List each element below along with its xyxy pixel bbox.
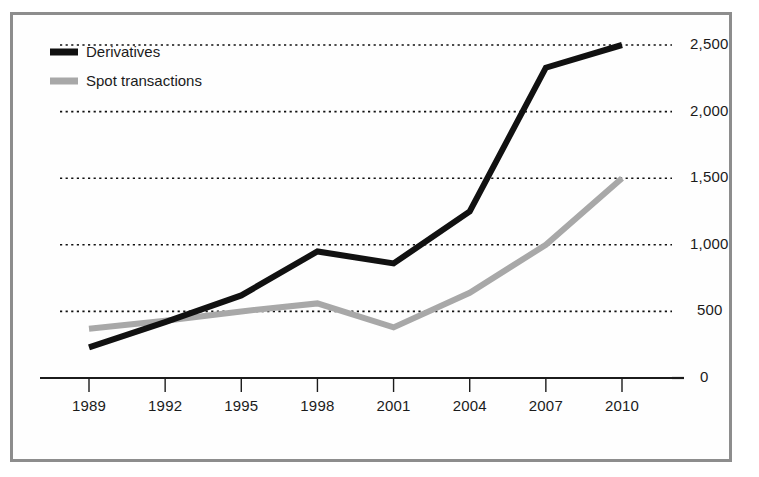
- legend-label-spot-transactions: Spot transactions: [86, 72, 202, 89]
- legend-label-derivatives: Derivatives: [86, 43, 160, 60]
- y-axis-label-500: 500: [697, 301, 723, 318]
- x-axis-label-2007: 2007: [529, 397, 563, 414]
- x-axis-label-2004: 2004: [453, 397, 487, 414]
- x-axis-label-1995: 1995: [224, 397, 258, 414]
- x-axis-label-1998: 1998: [300, 397, 334, 414]
- x-tick-marks-group: [89, 378, 622, 392]
- chart-legend: DerivativesSpot transactions: [50, 43, 202, 89]
- x-axis-labels-group: 19891992199519982001200420072010: [72, 397, 639, 414]
- y-axis-label-1500: 1,500: [690, 168, 729, 185]
- line-chart: 05001,0001,5002,0002,500 198919921995199…: [0, 0, 759, 477]
- series-group: [89, 45, 622, 347]
- chart-plot-area: 05001,0001,5002,0002,500 198919921995199…: [0, 0, 759, 477]
- series-line-spot-transactions: [89, 178, 622, 329]
- y-axis-label-2500: 2,500: [690, 35, 729, 52]
- x-axis-label-2010: 2010: [605, 397, 639, 414]
- y-axis-labels-group: 05001,0001,5002,0002,500: [672, 35, 729, 385]
- y-axis-label-1000: 1,000: [690, 235, 729, 252]
- series-line-derivatives: [89, 45, 622, 347]
- x-axis-label-2001: 2001: [376, 397, 410, 414]
- x-axis-label-1992: 1992: [148, 397, 182, 414]
- y-axis-label-2000: 2,000: [690, 102, 729, 119]
- x-axis-label-1989: 1989: [72, 397, 106, 414]
- y-axis-label-0: 0: [700, 368, 709, 385]
